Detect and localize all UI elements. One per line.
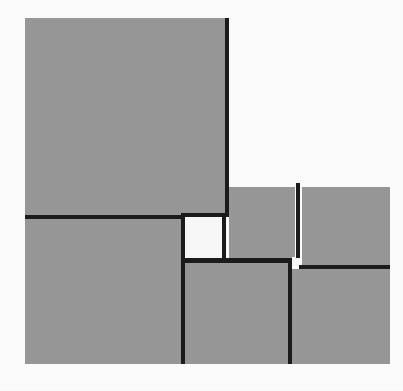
square-right-upper-left xyxy=(229,187,295,258)
square-bottom-left xyxy=(25,219,181,364)
square-bottom-center xyxy=(185,263,288,364)
square-top-left xyxy=(25,18,225,215)
rule-vertical-white-left xyxy=(181,213,185,364)
rule-vertical-top-main xyxy=(225,18,229,217)
figure-caption: A rectangle subdivided into squares of d… xyxy=(0,0,1,1)
square-top-right xyxy=(229,18,390,183)
rule-vertical-bottom-mid xyxy=(288,258,292,364)
rule-vertical-right-split xyxy=(296,183,300,258)
rule-vertical-white-right xyxy=(222,215,226,263)
figure-title: Squared rectangle dissection xyxy=(0,0,1,1)
rule-horizontal-left-mid xyxy=(25,215,185,219)
dissection-figure: A rectangle subdivided into squares of d… xyxy=(0,0,403,391)
square-bottom-right xyxy=(292,269,390,364)
square-center-white xyxy=(185,217,222,258)
rule-horizontal-white-bot xyxy=(181,258,292,263)
rule-horizontal-bottom-rt xyxy=(299,265,390,269)
square-right-upper-right xyxy=(302,187,390,265)
